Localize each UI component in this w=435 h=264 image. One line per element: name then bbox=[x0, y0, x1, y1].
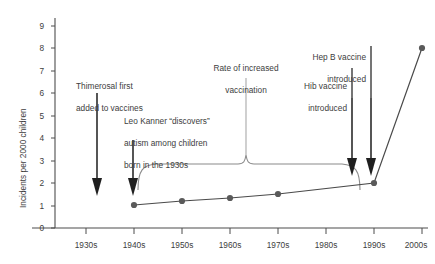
annotation-kanner: Leo Kanner “discovers” autism among chil… bbox=[124, 105, 210, 182]
data-point bbox=[419, 45, 425, 51]
annotation-hib: Hib vaccine introduced bbox=[282, 70, 347, 125]
autism-vaccine-timeline-chart: Incidents per 2000 children 9 8 7 6 5 4 … bbox=[0, 0, 435, 264]
x-tick-marks bbox=[86, 228, 422, 234]
x-tick-label-2000s: 2000s bbox=[396, 240, 435, 250]
x-tick-label-1930s: 1930s bbox=[66, 240, 106, 250]
y-tick-label: 0 bbox=[24, 223, 44, 233]
x-tick-label-1990s: 1990s bbox=[354, 240, 394, 250]
hepb-arrow bbox=[366, 98, 376, 176]
annotation-hepb-line1: Hep B vaccine bbox=[284, 52, 366, 63]
y-tick-label: 5 bbox=[24, 111, 44, 121]
data-point bbox=[275, 191, 281, 197]
x-tick-label-1960s: 1960s bbox=[210, 240, 250, 250]
annotation-thimerosal-line1: Thimerosal first bbox=[76, 81, 143, 92]
annotation-kanner-line2: autism among children bbox=[124, 138, 210, 149]
y-tick-label: 2 bbox=[24, 178, 44, 188]
annotation-kanner-line1: Leo Kanner “discovers” bbox=[124, 116, 210, 127]
y-tick-label: 9 bbox=[24, 21, 44, 31]
y-tick-label: 3 bbox=[24, 156, 44, 166]
x-tick-label-1980s: 1980s bbox=[306, 240, 346, 250]
data-point bbox=[371, 180, 377, 186]
data-point bbox=[131, 202, 137, 208]
y-tick-label: 6 bbox=[24, 88, 44, 98]
hib-arrow bbox=[347, 98, 357, 176]
data-point bbox=[179, 198, 185, 204]
annotation-hib-line1: Hib vaccine bbox=[282, 81, 347, 92]
y-tick-label: 7 bbox=[24, 66, 44, 76]
data-point bbox=[227, 195, 233, 201]
x-tick-label-1940s: 1940s bbox=[114, 240, 154, 250]
x-tick-label-1950s: 1950s bbox=[162, 240, 202, 250]
x-tick-label-1970s: 1970s bbox=[258, 240, 298, 250]
y-tick-label: 1 bbox=[24, 201, 44, 211]
chart-canvas bbox=[0, 0, 435, 264]
y-tick-marks bbox=[51, 26, 55, 228]
annotation-hib-line2: introduced bbox=[282, 103, 347, 114]
y-tick-label: 8 bbox=[24, 43, 44, 53]
y-tick-label: 4 bbox=[24, 133, 44, 143]
annotation-kanner-line3: born in the 1930s bbox=[124, 160, 210, 171]
